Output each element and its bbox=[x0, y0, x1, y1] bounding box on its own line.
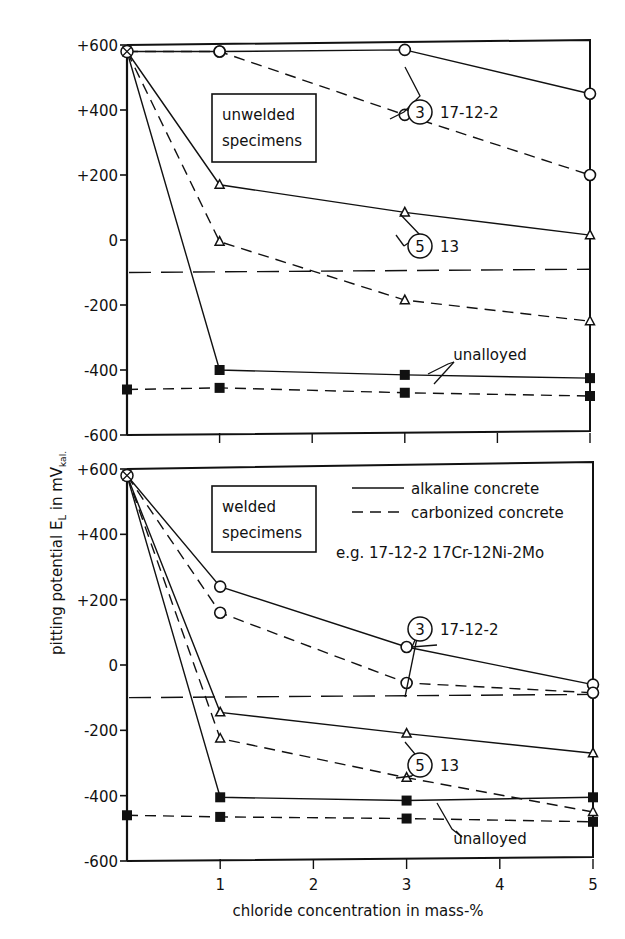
series-line-unalloyed-alkaline-concrete bbox=[127, 52, 590, 379]
y-tick-label: -400 bbox=[84, 362, 118, 380]
annotation-label: unalloyed bbox=[453, 346, 526, 364]
y-tick-label: +200 bbox=[77, 167, 118, 185]
marker-circle bbox=[588, 687, 599, 698]
y-tick-label: 0 bbox=[108, 657, 118, 675]
y-tick-label: -600 bbox=[84, 427, 118, 445]
annotation-circled-number: 3 bbox=[415, 104, 425, 122]
marker-square bbox=[215, 383, 225, 393]
annotation-label: unalloyed bbox=[453, 830, 526, 848]
marker-triangle bbox=[215, 237, 224, 246]
y-tick-label: 0 bbox=[108, 232, 118, 250]
x-tick-label: 3 bbox=[402, 876, 412, 894]
x-axis-title: chloride concentration in mass-% bbox=[232, 902, 483, 920]
y-tick-label: -200 bbox=[84, 722, 118, 740]
pitting-potential-chart: +600+400+2000-200-400-600unweldedspecime… bbox=[0, 0, 625, 939]
panel-label-box bbox=[212, 94, 316, 162]
marker-circle bbox=[585, 88, 596, 99]
marker-square bbox=[400, 388, 410, 398]
y-axis-title: pitting potential EL in mVkal. bbox=[48, 451, 68, 655]
reference-line bbox=[129, 694, 593, 697]
series-line-unalloyed-carbonized-concrete bbox=[127, 815, 593, 822]
marker-square bbox=[122, 810, 132, 820]
reference-line bbox=[129, 269, 590, 272]
marker-square bbox=[588, 792, 598, 802]
y-axis-title-main: pitting potential E bbox=[48, 521, 66, 655]
legend: alkaline concretecarbonized concretee.g.… bbox=[336, 480, 564, 562]
marker-square bbox=[215, 792, 225, 802]
y-tick-label: +600 bbox=[77, 461, 118, 479]
series-line-unalloyed-carbonized-concrete bbox=[127, 388, 590, 396]
x-tick-label: 4 bbox=[495, 876, 505, 894]
marker-triangle bbox=[216, 734, 225, 743]
x-tick-label: 1 bbox=[215, 876, 225, 894]
panel-label-line2: specimens bbox=[222, 132, 302, 150]
y-axis-title-unit: in mV bbox=[48, 466, 66, 515]
panel-label-box bbox=[212, 486, 316, 552]
legend-label: carbonized concrete bbox=[411, 504, 564, 522]
panel-unwelded: +600+400+2000-200-400-600unweldedspecime… bbox=[77, 37, 596, 445]
annotation-circled-number: 5 bbox=[415, 238, 425, 256]
annotation-leader bbox=[428, 362, 454, 374]
legend-label: alkaline concrete bbox=[411, 480, 539, 498]
marker-square bbox=[585, 391, 595, 401]
y-tick-label: +400 bbox=[77, 102, 118, 120]
series-line-13-alkaline-concrete bbox=[127, 52, 590, 236]
series-line-13-carbonized-concrete bbox=[127, 52, 590, 322]
marker-circle bbox=[401, 642, 412, 653]
marker-triangle bbox=[216, 707, 225, 716]
series-line-17-12-2-alkaline-concrete bbox=[127, 50, 590, 94]
panel-label-line1: welded bbox=[222, 498, 276, 516]
marker-circle bbox=[399, 44, 410, 55]
marker-square bbox=[400, 370, 410, 380]
marker-square bbox=[588, 817, 598, 827]
legend-note: e.g. 17-12-2 17Cr-12Ni-2Mo bbox=[336, 544, 544, 562]
marker-square bbox=[585, 373, 595, 383]
annotation-circled-number: 3 bbox=[415, 621, 425, 639]
x-tick-label: 5 bbox=[588, 876, 598, 894]
series-line-13-carbonized-concrete bbox=[127, 476, 593, 812]
series-line-17-12-2-carbonized-concrete bbox=[127, 52, 590, 176]
marker-square bbox=[215, 365, 225, 375]
y-axis-title-unit-sub: kal. bbox=[58, 451, 68, 467]
annotation-label: 13 bbox=[440, 757, 459, 775]
annotation-leader bbox=[396, 235, 404, 246]
y-tick-label: +400 bbox=[77, 526, 118, 544]
annotation-label: 17-12-2 bbox=[440, 621, 499, 639]
marker-circle bbox=[215, 607, 226, 618]
marker-circle bbox=[215, 581, 226, 592]
y-tick-label: +600 bbox=[77, 37, 118, 55]
annotation-circled-number: 5 bbox=[415, 757, 425, 775]
annotation-label: 13 bbox=[440, 238, 459, 256]
y-tick-label: -600 bbox=[84, 853, 118, 871]
panel-label-line2: specimens bbox=[222, 524, 302, 542]
x-tick-label: 2 bbox=[309, 876, 319, 894]
annotation-label: 17-12-2 bbox=[440, 104, 499, 122]
y-tick-label: +200 bbox=[77, 592, 118, 610]
panel-label-line1: unwelded bbox=[222, 106, 295, 124]
marker-triangle bbox=[586, 316, 595, 325]
marker-circle bbox=[214, 46, 225, 57]
marker-square bbox=[215, 812, 225, 822]
marker-circle bbox=[585, 170, 596, 181]
series-line-unalloyed-alkaline-concrete bbox=[127, 476, 593, 801]
y-tick-label: -400 bbox=[84, 788, 118, 806]
marker-square bbox=[402, 796, 412, 806]
marker-square bbox=[402, 814, 412, 824]
marker-square bbox=[122, 385, 132, 395]
y-tick-label: -200 bbox=[84, 297, 118, 315]
panel-welded: +600+400+2000-200-400-60012345weldedspec… bbox=[77, 461, 599, 894]
